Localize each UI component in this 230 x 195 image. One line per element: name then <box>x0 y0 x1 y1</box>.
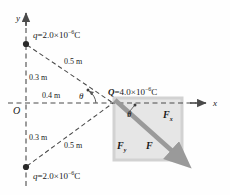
distance-horizontal: 0.4 m <box>42 92 60 100</box>
y-axis-label: y <box>16 14 20 23</box>
theta-arc-left <box>89 91 96 103</box>
distance-upper-vertical: 0.3 m <box>29 74 47 82</box>
lower-charge-dot <box>23 164 29 170</box>
upper-charge-dot <box>23 41 29 47</box>
y-component-force-subscript: y <box>124 147 127 153</box>
x-axis-label: x <box>213 99 217 108</box>
theta-arc-left-dot <box>87 89 90 92</box>
test-charge-label: Q=4.0×10−6C <box>108 88 157 97</box>
test-charge-base: 10 <box>136 87 145 97</box>
x-component-force-label: Fx <box>163 110 173 120</box>
lower-charge-value: 2.0 <box>43 171 54 181</box>
physics-force-diagram: y x O q=2.0×10−6C q=2.0×10−6C Q=4.0×10−6… <box>0 0 230 195</box>
upper-charge-value: 2.0 <box>43 30 54 40</box>
upper-charge-unit: C <box>74 30 80 40</box>
y-component-force-label: Fy <box>117 141 126 151</box>
distance-lower-vertical: 0.3 m <box>29 134 47 142</box>
theta-label-force: θ <box>127 110 131 119</box>
distance-lower-hypotenuse: 0.5 m <box>64 142 82 150</box>
y-component-force-symbol: F <box>117 140 124 151</box>
distance-upper-hypotenuse: 0.5 m <box>64 58 82 66</box>
test-charge-unit: C <box>151 87 157 97</box>
origin-label: O <box>13 106 20 116</box>
x-component-force-subscript: x <box>170 116 173 122</box>
lower-charge-base: 10 <box>59 171 68 181</box>
test-charge-value: 4.0 <box>120 87 131 97</box>
x-component-force-symbol: F <box>163 109 170 120</box>
lower-charge-unit: C <box>74 171 80 181</box>
theta-arc-force-dot <box>134 104 137 107</box>
theta-label-left: θ <box>79 92 83 101</box>
upper-charge-label: q=2.0×10−6C <box>33 31 80 40</box>
lower-charge-label: q=2.0×10−6C <box>33 172 80 181</box>
resultant-force-label: F <box>146 141 153 151</box>
upper-charge-base: 10 <box>59 30 68 40</box>
